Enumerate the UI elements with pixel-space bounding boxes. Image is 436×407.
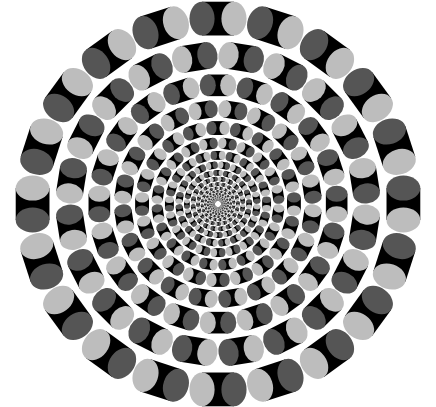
cylinder-segment (184, 199, 190, 209)
cylinder-segment (217, 209, 219, 210)
cylinder-segment (217, 200, 218, 201)
cylinder-segment (189, 2, 246, 36)
cylinder-segment (262, 197, 271, 212)
cylinder-segment (216, 190, 220, 192)
cylinder-segment (211, 248, 226, 257)
cylinder-segment (225, 203, 226, 206)
optical-illusion (0, 0, 436, 407)
cylinder-segment (212, 203, 213, 205)
cylinder-segment (206, 273, 229, 287)
cylinder-segment (211, 151, 226, 160)
cylinder-segment (217, 198, 219, 199)
cylinder-segment (213, 232, 223, 238)
cylinder-segment (209, 203, 210, 206)
cylinder-segment (213, 170, 223, 176)
cylinder-segment (200, 312, 237, 334)
background (0, 0, 436, 407)
cylinder-segment (206, 121, 229, 135)
cylinder-segment (196, 201, 200, 207)
cylinder-segment (216, 216, 220, 218)
cylinder-segment (189, 373, 246, 407)
cylinder-segment (287, 192, 301, 215)
cylinder-segment (217, 207, 218, 208)
cylinder-segment (135, 192, 149, 215)
cylinder-segment (215, 182, 221, 186)
cylinder-segment (165, 197, 174, 212)
cylinder-segment (230, 202, 232, 206)
cylinder-segment (89, 186, 111, 223)
cylinder-segment (200, 75, 237, 97)
cylinder-segment (204, 202, 206, 206)
cylinder-segment (215, 222, 221, 226)
cylinder-segment (326, 186, 348, 223)
cylinder-segment (246, 199, 252, 209)
cylinder-segment (236, 201, 240, 207)
cylinder-segment (16, 175, 50, 232)
cylinder-segment (217, 195, 220, 196)
cylinder-segment (221, 203, 222, 204)
cylinder-segment (387, 175, 421, 232)
cylinder-segment (214, 203, 215, 204)
cylinder-segment (217, 211, 220, 212)
cylinder-segment (223, 203, 224, 205)
